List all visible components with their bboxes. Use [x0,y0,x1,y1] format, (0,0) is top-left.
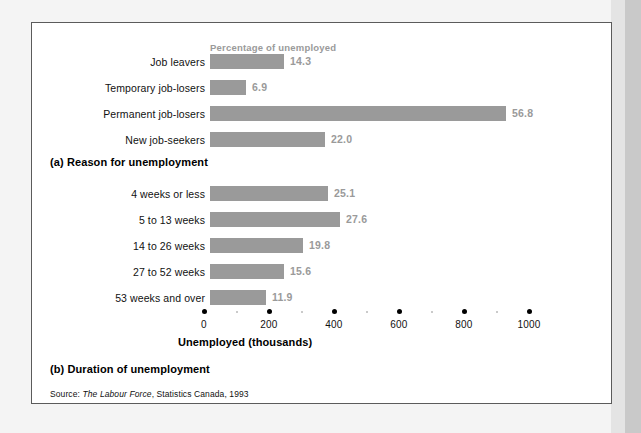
panel-b-bar-value: 11.9 [272,291,293,303]
panel-a-category-label: Temporary job-losers [50,82,205,94]
panel-a-category-label: Job leavers [50,56,205,68]
panel-b-bar-value: 15.6 [290,265,311,277]
x-axis-tick-label: 800 [439,319,489,330]
x-axis-minor-tick [366,311,368,313]
panel-b-bar [210,290,266,305]
panel-b-bar-value: 27.6 [346,213,367,225]
x-axis-major-tick [462,309,467,314]
panel-b-bar [210,186,328,201]
panel-a-bar-value: 14.3 [290,55,311,67]
panel-b-category-label: 5 to 13 weeks [50,214,205,226]
panel-b-category-label: 27 to 52 weeks [50,266,205,278]
panel-a-bar-value: 56.8 [512,107,533,119]
page-edge-light-band [611,0,625,433]
panel-a-axis-title: Percentage of unemployed [210,42,336,53]
source-publication: The Labour Force [82,389,151,399]
x-axis-tick-label: 600 [374,319,424,330]
figure-content: Percentage of unemployed Job leavers 14.… [32,23,613,405]
panel-a-bar [210,80,246,95]
panel-b-category-label: 14 to 26 weeks [50,240,205,252]
panel-a-bar-value: 22.0 [331,133,352,145]
x-axis-major-tick [267,309,272,314]
page-edge-dark-band [625,0,641,433]
panel-b-category-label: 53 weeks and over [50,292,205,304]
source-rest: , Statistics Canada, 1993 [152,389,249,399]
panel-b-bar [210,238,303,253]
panel-a-category-label: New job-seekers [50,134,205,146]
panel-b-bar [210,212,340,227]
panel-b-axis-caption: Unemployed (thousands) [178,336,312,348]
panel-b-caption: (b) Duration of unemployment [50,363,210,375]
x-axis-major-tick [332,309,337,314]
x-axis-minor-tick [236,311,238,313]
source-prefix: Source: [50,389,80,399]
x-axis-minor-tick [301,311,303,313]
x-axis-minor-tick [496,311,498,313]
panel-b-bar [210,264,284,279]
panel-a-caption: (a) Reason for unemployment [50,156,208,168]
panel-a-bar [210,106,506,121]
panel-b-category-label: 4 weeks or less [50,188,205,200]
x-axis-major-tick [527,309,532,314]
x-axis-tick-label: 200 [244,319,294,330]
x-axis-tick-label: 1000 [504,319,554,330]
panel-b-bar-value: 19.8 [309,239,330,251]
panel-b-bar-value: 25.1 [334,187,355,199]
panel-a-bar [210,132,325,147]
x-axis-tick-label: 400 [309,319,359,330]
x-axis-major-tick [202,309,207,314]
x-axis-minor-tick [431,311,433,313]
x-axis-tick-label: 0 [179,319,229,330]
panel-a-category-label: Permanent job-losers [50,108,205,120]
panel-a-bar-value: 6.9 [252,81,267,93]
x-axis-major-tick [397,309,402,314]
panel-a-bar [210,54,284,69]
figure-source: Source: The Labour Force, Statistics Can… [50,389,249,399]
figure-frame: Percentage of unemployed Job leavers 14.… [31,22,612,404]
